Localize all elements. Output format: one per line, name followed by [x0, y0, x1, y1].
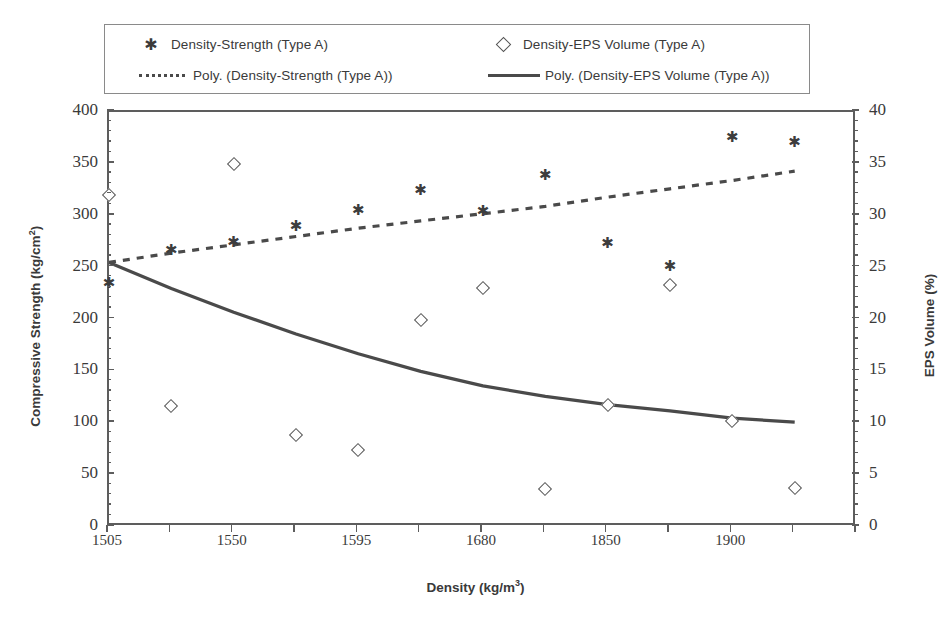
y-axis-left-minor-tick	[107, 151, 111, 152]
legend-item-poly-density-eps-volume: Poly. (Density-EPS Volume (Type A))	[483, 58, 770, 93]
y-axis-right-tick-labels: 0510152025303540	[869, 110, 929, 525]
y-axis-left-tick-labels: 050100150200250300350400	[40, 110, 98, 525]
y-axis-left-major-tick	[107, 369, 114, 371]
legend-row-1: ✱ Density-Strength (Type A) Density-EPS …	[105, 27, 809, 62]
legend-item-label: Poly. (Density-EPS Volume (Type A))	[545, 68, 770, 83]
x-axis-tick	[667, 525, 669, 532]
data-point-density-strength: ✱	[227, 234, 240, 249]
data-point-density-strength: ✱	[165, 242, 178, 257]
y-axis-right-minor-tick	[854, 234, 858, 235]
y-axis-right-minor-tick	[854, 254, 858, 255]
y-axis-right-major-tick	[852, 317, 859, 319]
y-axis-left-minor-tick	[107, 234, 111, 235]
data-point-density-strength: ✱	[601, 235, 614, 250]
plot-inner: ✱✱✱✱✱✱✱✱✱✱✱✱	[109, 112, 853, 523]
y-axis-right-minor-tick	[854, 120, 858, 121]
y-axis-right-minor-tick	[854, 203, 858, 204]
y-axis-left-minor-tick	[107, 140, 111, 141]
y-axis-right-tick-label: 40	[869, 100, 886, 120]
y-axis-left-minor-tick	[107, 452, 111, 453]
y-axis-left-tick-label: 150	[73, 359, 99, 379]
y-axis-right-tick-label: 10	[869, 411, 886, 431]
y-axis-left-minor-tick	[107, 275, 111, 276]
y-axis-right-minor-tick	[854, 140, 858, 141]
y-axis-right-minor-tick	[854, 244, 858, 245]
y-axis-right-ticks	[855, 110, 856, 525]
x-axis-tick	[605, 525, 607, 532]
y-axis-right-minor-tick	[854, 130, 858, 131]
x-axis-tick-label: 1850	[591, 532, 621, 549]
legend-item-poly-density-strength: Poly. (Density-Strength (Type A))	[131, 58, 393, 93]
y-axis-right-minor-tick	[854, 503, 858, 504]
y-axis-right-minor-tick	[854, 151, 858, 152]
poly-density-strength-trendline	[109, 171, 795, 262]
y-axis-left-minor-tick	[107, 503, 111, 504]
y-axis-left-minor-tick	[107, 327, 111, 328]
y-axis-right-major-tick	[852, 420, 859, 422]
chart-figure: ✱ Density-Strength (Type A) Density-EPS …	[0, 0, 951, 619]
diamond-marker-icon	[483, 39, 523, 50]
y-axis-left-minor-tick	[107, 400, 111, 401]
y-axis-left-minor-tick	[107, 192, 111, 193]
y-axis-right-minor-tick	[854, 462, 858, 463]
y-axis-right-minor-tick	[854, 400, 858, 401]
data-point-density-strength: ✱	[290, 219, 303, 234]
y-axis-right-tick-label: 35	[869, 152, 886, 172]
y-axis-right-minor-tick	[854, 348, 858, 349]
x-axis-tick-label: 1680	[466, 532, 496, 549]
y-axis-left-major-tick	[107, 472, 114, 474]
x-axis-tick	[356, 525, 358, 532]
x-axis-tick	[106, 525, 108, 532]
y-axis-right-tick-label: 15	[869, 359, 886, 379]
y-axis-left-minor-tick	[107, 182, 111, 183]
y-axis-left-minor-tick	[107, 348, 111, 349]
poly-density-eps-volume-trendline	[109, 262, 795, 422]
y-axis-right-tick-label: 30	[869, 204, 886, 224]
y-axis-right-minor-tick	[854, 286, 858, 287]
x-axis-tick	[792, 525, 794, 532]
y-axis-right-minor-tick	[854, 296, 858, 297]
y-axis-left-minor-tick	[107, 296, 111, 297]
x-axis-tick	[480, 525, 482, 532]
y-axis-right-minor-tick	[854, 441, 858, 442]
y-axis-right-minor-tick	[854, 431, 858, 432]
y-axis-right-tick-label: 0	[869, 515, 878, 535]
y-axis-right-minor-tick	[854, 192, 858, 193]
y-axis-right-minor-tick	[854, 483, 858, 484]
y-axis-left-minor-tick	[107, 130, 111, 131]
y-axis-right-tick-label: 25	[869, 256, 886, 276]
data-point-density-strength: ✱	[726, 129, 739, 144]
y-axis-left-minor-tick	[107, 483, 111, 484]
y-axis-right-major-tick	[852, 109, 859, 111]
y-axis-left-tick-label: 200	[73, 308, 99, 328]
y-axis-right-title: EPS Volume (%)	[922, 216, 937, 436]
y-axis-left-tick-label: 250	[73, 256, 99, 276]
y-axis-left-minor-tick	[107, 431, 111, 432]
x-axis-tick-label: 1900	[715, 532, 745, 549]
x-axis-tick-labels: 150515501595168018501900	[107, 532, 855, 558]
y-axis-left-title: Compressive Strength (kg/cm2)	[27, 216, 44, 436]
x-axis-tick-label: 1550	[217, 532, 247, 549]
x-axis-tick	[854, 525, 856, 532]
y-axis-right-major-tick	[852, 472, 859, 474]
y-axis-right-minor-tick	[854, 358, 858, 359]
x-axis-tick	[543, 525, 545, 532]
data-point-density-strength: ✱	[352, 202, 365, 217]
x-axis-tick-label: 1505	[92, 532, 122, 549]
x-axis-tick	[418, 525, 420, 532]
y-axis-left-minor-tick	[107, 120, 111, 121]
chart-legend: ✱ Density-Strength (Type A) Density-EPS …	[104, 24, 810, 94]
y-axis-right-major-tick	[852, 161, 859, 163]
y-axis-left-minor-tick	[107, 493, 111, 494]
legend-item-label: Density-Strength (Type A)	[171, 37, 328, 52]
y-axis-left-minor-tick	[107, 171, 111, 172]
y-axis-right-minor-tick	[854, 337, 858, 338]
x-axis-ticks	[107, 525, 855, 526]
legend-item-density-strength: ✱ Density-Strength (Type A)	[131, 27, 328, 62]
y-axis-left-minor-tick	[107, 389, 111, 390]
legend-item-label: Density-EPS Volume (Type A)	[523, 37, 705, 52]
y-axis-left-minor-tick	[107, 514, 111, 515]
y-axis-right-minor-tick	[854, 410, 858, 411]
solid-line-icon	[483, 74, 545, 77]
y-axis-left-minor-tick	[107, 441, 111, 442]
